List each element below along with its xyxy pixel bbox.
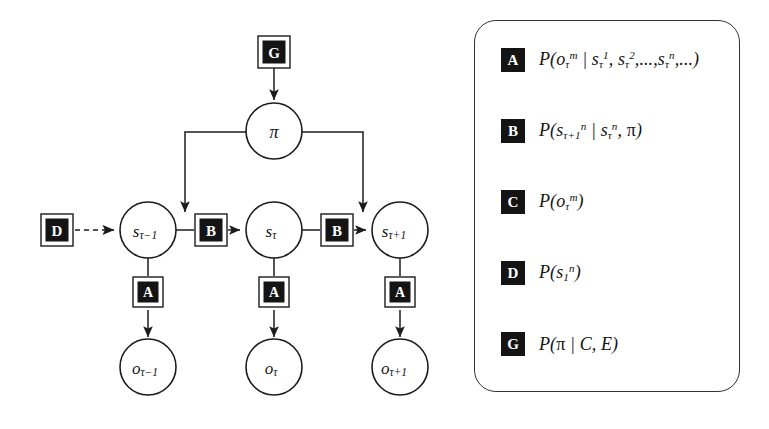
legend-formula-g: P(π | C, E) bbox=[539, 334, 618, 355]
node-pi[interactable]: π bbox=[246, 103, 302, 159]
factor-box-a-left-label: A bbox=[143, 285, 154, 300]
node-s-next[interactable]: sτ+1 bbox=[372, 202, 428, 258]
legend-chip-a: A bbox=[501, 48, 525, 72]
legend-row-b[interactable]: B P(sτ+1n | sτn, π) bbox=[501, 118, 642, 144]
factor-box-a-mid-label: A bbox=[269, 285, 280, 300]
legend-row-a[interactable]: A P(oτm | sτ1, sτ2,...,sτn,...) bbox=[501, 47, 699, 73]
legend-formula-c: P(oτm) bbox=[539, 191, 584, 212]
factor-box-d[interactable]: D bbox=[41, 214, 73, 246]
factor-box-b-right[interactable]: B bbox=[321, 214, 353, 246]
legend-chip-g: G bbox=[501, 332, 525, 356]
legend-chip-c: C bbox=[501, 190, 525, 214]
legend-row-c[interactable]: C P(oτm) bbox=[501, 189, 584, 215]
node-layer-circles: π sτ−1 sτ sτ+1 bbox=[120, 103, 428, 395]
legend-formula-b: P(sτ+1n | sτn, π) bbox=[539, 120, 642, 141]
node-s-prev[interactable]: sτ−1 bbox=[120, 202, 176, 258]
factor-box-b-left[interactable]: B bbox=[195, 214, 227, 246]
legend-row-d[interactable]: D P(s1n) bbox=[501, 260, 581, 286]
factor-box-d-label: D bbox=[52, 223, 63, 239]
factor-box-g[interactable]: G bbox=[258, 36, 290, 68]
factor-box-b-right-label: B bbox=[332, 223, 342, 239]
factor-box-a-right-label: A bbox=[395, 285, 406, 300]
node-o-next[interactable]: oτ+1 bbox=[372, 339, 428, 395]
edge-pi-to-b-left bbox=[185, 132, 246, 212]
factor-box-b-left-label: B bbox=[206, 223, 216, 239]
node-s-curr[interactable]: sτ bbox=[246, 202, 302, 258]
factor-box-a-left[interactable]: A bbox=[133, 277, 163, 307]
legend-formula-a: P(oτm | sτ1, sτ2,...,sτn,...) bbox=[539, 49, 699, 70]
factor-box-a-right[interactable]: A bbox=[385, 277, 415, 307]
legend-chip-d: D bbox=[501, 261, 525, 285]
edge-layer bbox=[75, 67, 400, 337]
legend-panel: A P(oτm | sτ1, sτ2,...,sτn,...) B P(sτ+1… bbox=[474, 20, 740, 392]
node-o-curr[interactable]: oτ bbox=[246, 339, 302, 395]
node-pi-label: π bbox=[269, 122, 279, 142]
factor-box-g-label: G bbox=[268, 45, 280, 61]
factor-box-a-mid[interactable]: A bbox=[259, 277, 289, 307]
node-layer-factor-boxes: G D B B bbox=[41, 36, 415, 307]
legend-formula-d: P(s1n) bbox=[539, 262, 581, 283]
edge-pi-to-b-right bbox=[302, 132, 363, 212]
legend-chip-b: B bbox=[501, 119, 525, 143]
node-o-prev[interactable]: oτ−1 bbox=[120, 339, 176, 395]
legend-row-g[interactable]: G P(π | C, E) bbox=[501, 331, 618, 357]
figure-canvas: π sτ−1 sτ sτ+1 bbox=[0, 0, 769, 429]
